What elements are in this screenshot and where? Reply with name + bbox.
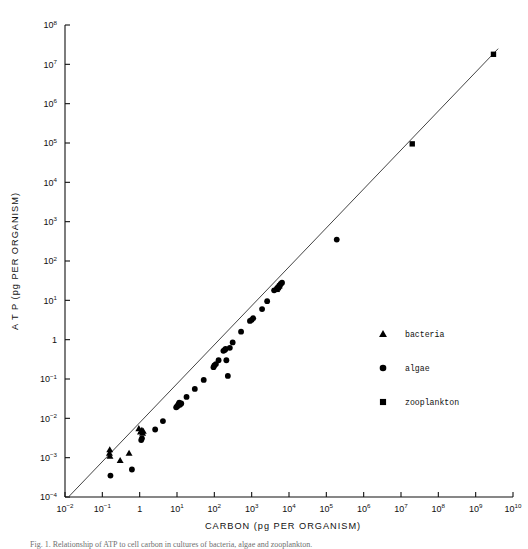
data-point-bacteria	[126, 450, 133, 456]
axis-tick-label: 10−3	[40, 451, 58, 463]
axis-tick-label: 104	[44, 176, 58, 188]
data-point-algae	[225, 373, 231, 379]
regression-line	[69, 49, 498, 496]
series-bacteria	[106, 425, 147, 463]
axis-tick-label: 105	[320, 502, 334, 514]
axis-tick-label: 103	[245, 502, 259, 514]
axis-tick-label: 1	[52, 335, 57, 345]
data-point-algae	[201, 377, 207, 383]
legend: bacteriaalgaezooplankton	[379, 330, 459, 407]
axis-tick-label: 108	[44, 19, 58, 31]
data-point-zooplankton	[491, 52, 496, 57]
scatter-plot: 10−210−111011021031041051061071081091010…	[0, 0, 528, 549]
axis-tick-label: 102	[44, 255, 58, 267]
data-point-algae	[139, 435, 145, 441]
data-point-algae	[129, 467, 135, 473]
data-point-algae	[178, 400, 184, 406]
figure-container: 10−210−111011021031041051061071081091010…	[0, 0, 528, 549]
data-point-algae	[216, 357, 222, 363]
axis-tick-label: 109	[469, 502, 483, 514]
data-point-algae	[238, 329, 244, 335]
y-axis-title: A T P (pg PER ORGANISM)	[10, 192, 20, 330]
data-point-algae	[264, 298, 270, 304]
x-axis-title: CARBON (pg PER ORGANISM)	[205, 521, 361, 531]
data-point-algae	[223, 357, 229, 363]
axis-tick-label: 107	[394, 502, 408, 514]
axis-tick-label: 1	[137, 504, 142, 514]
legend-marker-algae	[380, 365, 387, 372]
axis-tick-label: 105	[44, 137, 58, 149]
legend-marker-zooplankton	[380, 399, 386, 405]
axis-tick-label: 10−1	[94, 502, 112, 514]
data-point-algae	[250, 315, 256, 321]
figure-caption: Fig. 1. Relationship of ATP to cell carb…	[30, 539, 500, 549]
data-point-algae	[108, 473, 114, 479]
data-point-bacteria	[106, 446, 113, 452]
axis-tick-label: 10−2	[40, 412, 58, 424]
data-point-algae	[152, 427, 158, 433]
data-point-algae	[160, 418, 166, 424]
axis-tick-label: 101	[44, 294, 58, 306]
data-point-algae	[230, 340, 236, 346]
axis-tick-label: 106	[357, 502, 371, 514]
axis-tick-label: 1010	[505, 502, 522, 514]
axis-tick-label: 101	[170, 502, 184, 514]
axis-tick-label: 106	[44, 97, 58, 109]
axis-tick-label: 102	[208, 502, 222, 514]
data-point-algae	[259, 306, 265, 312]
series-algae	[108, 237, 340, 479]
data-point-algae	[184, 394, 190, 400]
data-point-algae	[227, 345, 233, 351]
data-point-algae	[334, 237, 340, 243]
axis-tick-label: 108	[432, 502, 446, 514]
axis-tick-label: 10−4	[40, 491, 58, 503]
legend-label-algae: algae	[405, 364, 430, 373]
legend-label-zooplankton: zooplankton	[405, 398, 459, 407]
data-point-zooplankton	[277, 283, 282, 288]
series-zooplankton	[274, 52, 496, 292]
axis-tick-label: 107	[44, 58, 58, 70]
legend-marker-bacteria	[379, 330, 387, 337]
axis-tick-label: 10−2	[56, 502, 74, 514]
data-point-algae	[192, 386, 198, 392]
legend-label-bacteria: bacteria	[405, 330, 444, 339]
axis-tick-label: 103	[44, 215, 58, 227]
axis-tick-label: 10−1	[40, 373, 58, 385]
data-point-zooplankton	[410, 141, 415, 146]
axis-tick-label: 104	[282, 502, 296, 514]
data-point-bacteria	[117, 457, 124, 463]
